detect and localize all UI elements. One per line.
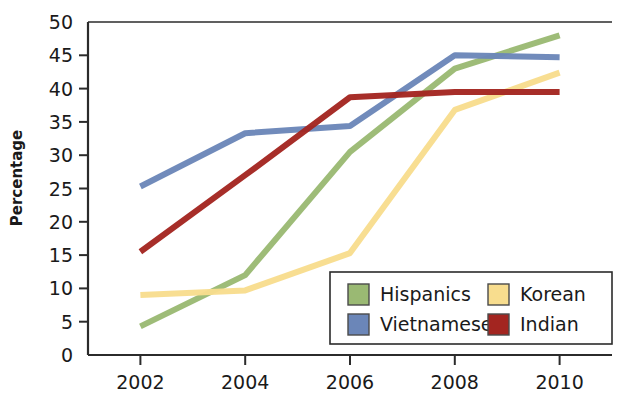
legend-swatch-korean xyxy=(488,284,509,305)
x-tick-label: 2006 xyxy=(326,371,374,393)
legend-swatch-vietnamese xyxy=(348,314,369,335)
x-tick-label: 2004 xyxy=(221,371,269,393)
legend-entry[interactable]: Hispanics xyxy=(348,283,471,305)
y-tick-label: 10 xyxy=(49,277,73,299)
x-tick-label: 2010 xyxy=(535,371,583,393)
legend-label-hispanics: Hispanics xyxy=(380,283,471,305)
y-tick-label: 45 xyxy=(49,44,73,66)
y-axis-title: Percentage xyxy=(8,130,26,227)
legend-label-indian: Indian xyxy=(520,313,579,335)
y-tick-label: 0 xyxy=(61,344,73,366)
legend-label-korean: Korean xyxy=(520,283,586,305)
y-tick-label: 35 xyxy=(49,111,73,133)
y-tick-label: 15 xyxy=(49,244,73,266)
y-tick-label: 30 xyxy=(49,144,73,166)
legend-swatch-hispanics xyxy=(348,284,369,305)
y-tick-label: 20 xyxy=(49,211,73,233)
line-chart: Percentage 05101520253035404550 20022004… xyxy=(0,0,620,394)
y-tick-label: 5 xyxy=(61,311,73,333)
x-tick-label: 2002 xyxy=(116,371,164,393)
legend-swatch-indian xyxy=(488,314,509,335)
x-tick-label: 2008 xyxy=(431,371,479,393)
legend-entry[interactable]: Vietnamese xyxy=(348,313,492,335)
y-tick-label: 50 xyxy=(49,11,73,33)
legend-entry[interactable]: Indian xyxy=(488,313,579,335)
y-tick-label: 25 xyxy=(49,178,73,200)
chart-legend: HispanicsKoreanVietnameseIndian xyxy=(330,272,612,344)
legend-entry[interactable]: Korean xyxy=(488,283,586,305)
chart-canvas: Percentage 05101520253035404550 20022004… xyxy=(0,0,620,394)
legend-label-vietnamese: Vietnamese xyxy=(380,313,492,335)
y-tick-label: 40 xyxy=(49,78,73,100)
